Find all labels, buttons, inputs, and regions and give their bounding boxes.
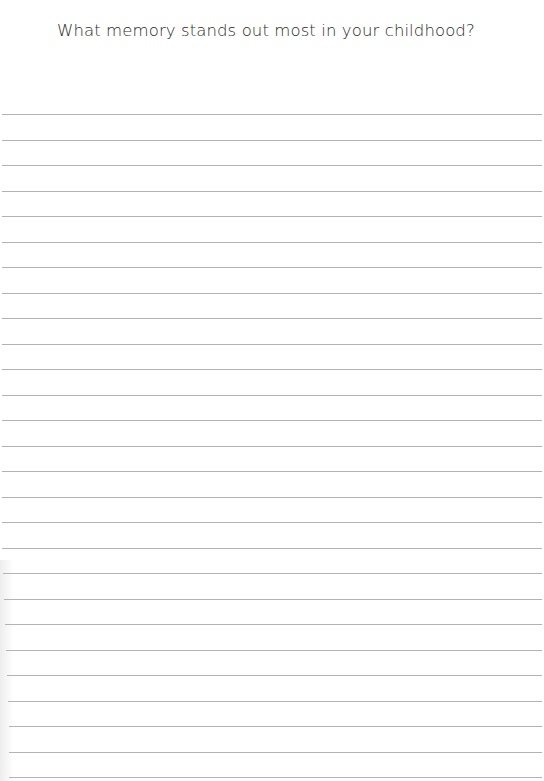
ruled-line [2,369,542,370]
writing-lines-area[interactable] [0,0,544,781]
ruled-line [2,318,542,319]
ruled-line [2,216,542,217]
ruled-line [2,344,542,345]
ruled-line [2,471,542,472]
ruled-line [2,395,542,396]
ruled-line [2,293,542,294]
ruled-line [9,726,542,727]
ruled-line [2,522,542,523]
ruled-line [2,165,542,166]
ruled-line [3,573,542,574]
ruled-line [2,497,542,498]
ruled-line [2,548,542,549]
ruled-line [2,446,542,447]
ruled-line [2,420,542,421]
ruled-line [7,675,542,676]
ruled-line [2,140,542,141]
journal-page: What memory stands out most in your chil… [0,0,544,781]
ruled-line [6,650,542,651]
ruled-line [2,267,542,268]
ruled-line [8,701,542,702]
ruled-line [4,599,542,600]
ruled-line [9,752,542,753]
ruled-line [9,777,542,778]
ruled-line [2,191,542,192]
ruled-line [5,624,542,625]
ruled-line [2,242,542,243]
ruled-line [2,114,542,115]
